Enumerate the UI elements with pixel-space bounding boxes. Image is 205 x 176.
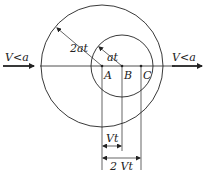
2vt-dimension-label: 2 Vt (109, 160, 133, 173)
large-radius-label: 2at (69, 42, 89, 55)
point-b-label: B (123, 69, 132, 82)
point-c-label: C (143, 69, 152, 82)
right-arrow-label: V<a (172, 51, 196, 64)
point-a-label: A (103, 69, 112, 82)
wavefront-diagram: V<a V<a 2at at A B C Vt 2 Vt (0, 0, 205, 176)
vt-dimension-label: Vt (106, 132, 119, 145)
small-radius-label: at (107, 51, 119, 64)
left-arrow-label: V<a (5, 51, 29, 64)
